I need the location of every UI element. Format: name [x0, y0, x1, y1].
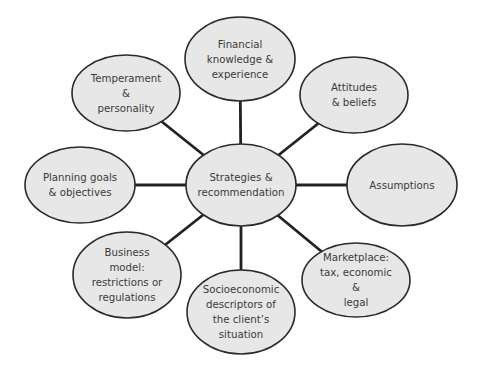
- node-label-line: Socioeconomic: [203, 284, 280, 295]
- node-label-line: model:: [109, 262, 144, 273]
- node-label-line: descriptors of: [206, 299, 276, 310]
- node-label-line: Marketplace:: [323, 252, 389, 263]
- node-attitudes: Attitudes& beliefs: [300, 57, 408, 133]
- node-label-line: & objectives: [48, 187, 111, 198]
- node-label-line: situation: [219, 329, 263, 340]
- center-node-strategies: Strategies &recommendation: [186, 144, 296, 226]
- node-socioeconomic: Socioeconomicdescriptors ofthe client’ss…: [187, 270, 295, 354]
- node-label-line: & beliefs: [332, 97, 377, 108]
- node-label-line: &: [122, 88, 130, 99]
- node-label-line: tax, economic: [320, 267, 392, 278]
- node-label-line: recommendation: [198, 187, 285, 198]
- node-financial: Financialknowledge &experience: [185, 17, 295, 101]
- node-planning: Planning goals& objectives: [25, 147, 135, 223]
- mind-map-diagram: Financialknowledge &experienceAttitudes&…: [0, 0, 482, 373]
- node-label-line: Attitudes: [331, 82, 377, 93]
- node-label-line: Strategies &: [209, 172, 272, 183]
- node-label-line: knowledge &: [207, 54, 273, 65]
- node-temperament: Temperament&personality: [72, 55, 180, 131]
- node-business: Businessmodel:restrictions orregulations: [73, 232, 181, 318]
- node-label-line: Planning goals: [43, 172, 117, 183]
- node-label-line: Assumptions: [369, 180, 434, 191]
- node-ellipse: [73, 232, 181, 318]
- node-marketplace: Marketplace:tax, economic&legal: [302, 243, 410, 317]
- node-label-line: restrictions or: [92, 277, 163, 288]
- node-ellipse: [300, 57, 408, 133]
- node-label-line: the client’s: [213, 314, 269, 325]
- node-label-line: Financial: [218, 39, 263, 50]
- node-ellipse: [186, 144, 296, 226]
- node-assumptions: Assumptions: [347, 144, 457, 226]
- node-label-line: regulations: [98, 292, 155, 303]
- node-ellipse: [25, 147, 135, 223]
- node-label-line: personality: [98, 103, 155, 114]
- node-label-line: Temperament: [90, 73, 162, 84]
- node-label-line: &: [352, 282, 360, 293]
- node-strategies: Strategies &recommendation: [186, 144, 296, 226]
- node-label-line: experience: [212, 69, 268, 80]
- node-label-line: Business: [105, 247, 150, 258]
- node-ellipse: [187, 270, 295, 354]
- node-label-line: legal: [344, 297, 369, 308]
